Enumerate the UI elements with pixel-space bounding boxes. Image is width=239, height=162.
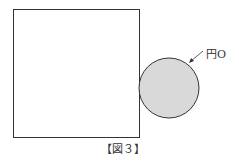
arrow-line xyxy=(191,51,203,61)
circle-o xyxy=(139,58,199,118)
figure-canvas xyxy=(0,0,239,162)
figure-caption: 【図３】 xyxy=(101,140,145,156)
square xyxy=(14,10,140,138)
circle-label: 円O xyxy=(206,45,226,61)
